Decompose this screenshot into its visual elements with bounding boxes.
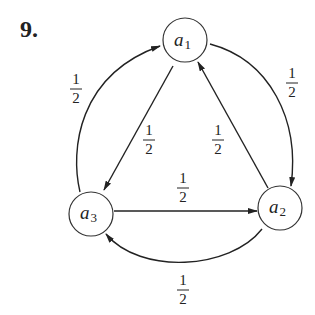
label-edge-a2-a1: 1 2 (212, 122, 224, 157)
svg-text:2: 2 (214, 141, 222, 157)
node-a1: a1 (163, 18, 207, 62)
edge-a1-a2 (210, 44, 293, 186)
edge-a1-a3 (104, 66, 173, 190)
svg-text:1: 1 (145, 122, 153, 138)
label-edge-a2-a3: 1 2 (177, 272, 189, 307)
svg-text:1: 1 (179, 170, 187, 186)
label-edge-a1-a2: 1 2 (286, 65, 298, 100)
svg-text:1: 1 (72, 71, 80, 87)
svg-text:1: 1 (288, 65, 296, 81)
edge-a2-a3 (106, 229, 262, 262)
svg-text:1: 1 (214, 122, 222, 138)
node-a3: a3 (69, 192, 113, 236)
svg-text:1: 1 (179, 272, 187, 288)
svg-text:2: 2 (145, 141, 153, 157)
label-edge-a3-a1: 1 2 (70, 71, 82, 106)
markov-chain-diagram: a1 a2 a3 1 2 1 2 1 2 1 2 1 2 1 2 (0, 0, 315, 315)
edge-a3-a1 (77, 46, 160, 192)
svg-text:2: 2 (72, 90, 80, 106)
svg-text:2: 2 (288, 84, 296, 100)
svg-text:2: 2 (179, 189, 187, 205)
node-a2: a2 (258, 186, 302, 230)
edge-a2-a1 (198, 62, 268, 188)
svg-text:2: 2 (179, 291, 187, 307)
label-edge-a3-a2: 1 2 (177, 170, 189, 205)
label-edge-a1-a3: 1 2 (143, 122, 155, 157)
